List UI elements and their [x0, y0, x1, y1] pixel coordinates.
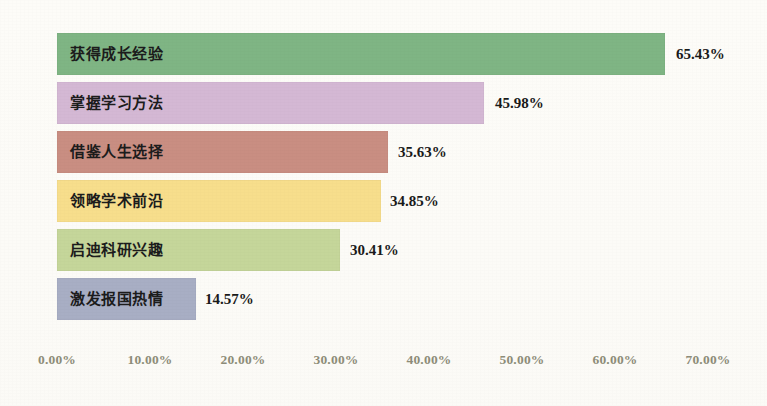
bar-value-label: 65.43%	[676, 33, 725, 75]
bar-value-label: 30.41%	[350, 229, 399, 271]
bar-category-label: 掌握学习方法	[70, 82, 163, 124]
bar-category-label: 领略学术前沿	[70, 180, 163, 222]
x-tick-label: 30.00%	[313, 352, 358, 368]
bar-chart: 获得成长经验 65.43% 掌握学习方法 45.98% 借鉴人生选择 35.63…	[0, 0, 767, 406]
bar-category-label: 激发报国热情	[70, 278, 163, 320]
bar-category-label: 获得成长经验	[70, 33, 163, 75]
x-tick-label: 60.00%	[592, 352, 637, 368]
bar-category-label: 启迪科研兴趣	[70, 229, 163, 271]
bar-value-label: 35.63%	[398, 131, 447, 173]
plot-area: 获得成长经验 65.43% 掌握学习方法 45.98% 借鉴人生选择 35.63…	[0, 0, 767, 340]
x-tick-label: 20.00%	[220, 352, 265, 368]
x-axis: 0.00% 10.00% 20.00% 30.00% 40.00% 50.00%…	[0, 352, 767, 382]
bar-value-label: 45.98%	[495, 82, 544, 124]
x-tick-label: 40.00%	[406, 352, 451, 368]
bar-value-label: 14.57%	[205, 278, 254, 320]
x-tick-label: 50.00%	[499, 352, 544, 368]
bar-value-label: 34.85%	[390, 180, 439, 222]
bar-category-label: 借鉴人生选择	[70, 131, 163, 173]
x-tick-label: 10.00%	[127, 352, 172, 368]
x-tick-label: 70.00%	[685, 352, 730, 368]
x-tick-label: 0.00%	[38, 352, 76, 368]
